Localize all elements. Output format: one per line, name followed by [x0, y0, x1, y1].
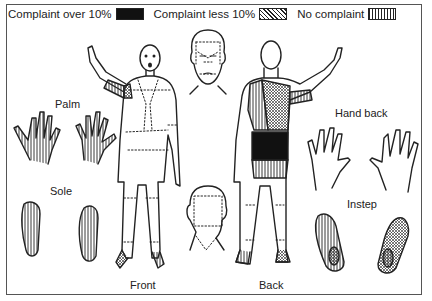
face-closeup: [190, 30, 226, 94]
label-back: Back: [259, 279, 283, 291]
instep-feet: [316, 214, 409, 273]
label-hand-back: Hand back: [335, 107, 388, 119]
label-instep: Instep: [347, 198, 377, 210]
hand-backs: [308, 128, 418, 192]
sole-feet: [22, 202, 98, 261]
palm-hands: [14, 112, 116, 164]
body-diagram: [0, 0, 432, 301]
label-front: Front: [130, 279, 156, 291]
label-sole: Sole: [50, 185, 72, 197]
label-palm: Palm: [55, 98, 80, 110]
back-head: [187, 186, 227, 250]
